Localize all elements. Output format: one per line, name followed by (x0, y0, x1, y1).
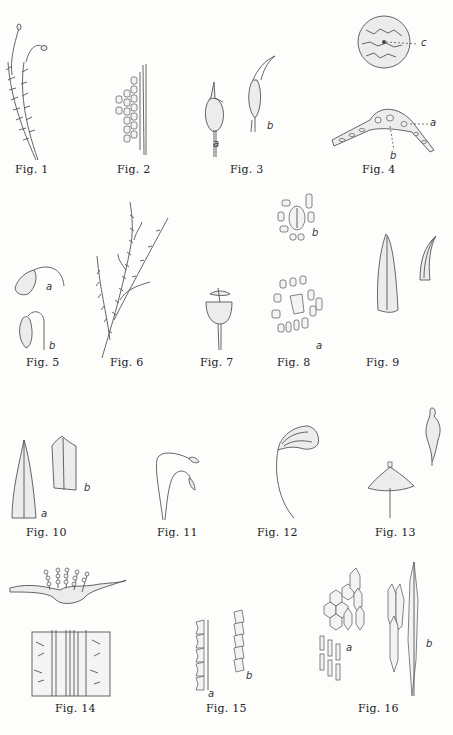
figure-3-sublabel-b: b (267, 120, 273, 131)
figure-11: Fig. 11 (145, 400, 215, 570)
figure-4-sublabel-b: b (390, 150, 396, 161)
figure-9-caption: Fig. 9 (366, 356, 399, 369)
figure-16-sublabel-a: a (346, 642, 352, 653)
figure-4-sublabel-c: c (421, 37, 427, 48)
cross-section-drawing (330, 0, 453, 190)
figure-14-caption: Fig. 14 (55, 702, 96, 715)
figure-5: a b Fig. 5 (0, 190, 80, 390)
figure-15-sublabel-b: b (246, 670, 252, 681)
leaf-tips-drawing (0, 400, 90, 570)
figure-7-caption: Fig. 7 (200, 356, 233, 369)
figure-15-sublabel-a: a (208, 688, 214, 699)
figure-5-caption: Fig. 5 (26, 356, 59, 369)
figure-12-caption: Fig. 12 (257, 526, 298, 539)
figure-2-caption: Fig. 2 (117, 163, 150, 176)
figure-8: b a Fig. 8 (270, 190, 350, 390)
figure-4: c a b Fig. 4 (330, 0, 453, 190)
figure-16-sublabel-b: b (426, 638, 432, 649)
figure-10-caption: Fig. 10 (26, 526, 67, 539)
figure-11-caption: Fig. 11 (157, 526, 198, 539)
figure-1-caption: Fig. 1 (15, 163, 48, 176)
figure-13: Fig. 13 (380, 400, 453, 570)
figure-5-sublabel-b: b (49, 340, 55, 351)
figure-6: Fig. 6 (80, 190, 180, 390)
figure-8-caption: Fig. 8 (277, 356, 310, 369)
figure-10-sublabel-a: a (41, 508, 47, 519)
curved-capsule-drawing (260, 400, 340, 570)
figure-7: Fig. 7 (190, 190, 260, 390)
figure-8-sublabel-b: b (312, 227, 318, 238)
figure-3-sublabel-a: a (213, 138, 219, 149)
figure-12: Fig. 12 (260, 400, 340, 570)
figure-13-caption: Fig. 13 (375, 526, 416, 539)
figure-5-sublabel-a: a (46, 281, 52, 292)
figure-2: Fig. 2 (100, 0, 180, 190)
botanical-plate: Fig. 1 Fig. 2 (0, 0, 453, 735)
figure-10-sublabel-b: b (84, 482, 90, 493)
figure-9: Fig. 9 (360, 190, 453, 390)
moss-plant-drawing (0, 0, 80, 190)
figure-10: a b Fig. 10 (0, 400, 90, 570)
figure-14: Fig. 14 (0, 560, 140, 735)
figure-1: Fig. 1 (0, 0, 80, 190)
stalked-capsules-drawing (145, 400, 215, 570)
figure-16: a b Fig. 16 (310, 560, 453, 735)
figure-3: a b Fig. 3 (195, 0, 295, 190)
figure-8-sublabel-a: a (316, 340, 322, 351)
figure-6-caption: Fig. 6 (110, 356, 143, 369)
leaf-cell-drawing (100, 0, 180, 190)
peristome-capsule-drawing (380, 400, 453, 570)
figure-15-caption: Fig. 15 (206, 702, 247, 715)
capsule-drawing (195, 0, 295, 190)
figure-16-caption: Fig. 16 (358, 702, 399, 715)
figure-4-caption: Fig. 4 (362, 163, 395, 176)
figure-4-sublabel-a: a (430, 117, 436, 128)
figure-15: a b Fig. 15 (180, 560, 270, 735)
figure-3-caption: Fig. 3 (230, 163, 263, 176)
